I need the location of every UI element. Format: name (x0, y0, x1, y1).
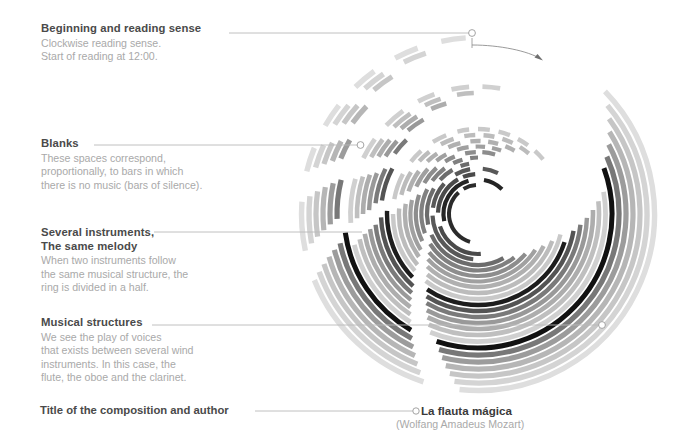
ring-segment (451, 87, 469, 89)
callout-title: Several instruments, (41, 226, 188, 240)
composition-author: (Wolfang Amadeus Mozart) (396, 418, 524, 430)
ring-segment (440, 226, 481, 254)
callout-body-line: proportionally, to bars in which (41, 165, 202, 179)
ring-segment (441, 38, 465, 41)
ring-segment (441, 139, 454, 144)
ring-segment (431, 103, 446, 108)
leader-dot-musical-structures (599, 322, 606, 329)
callout-title: Musical structures (41, 316, 194, 330)
callout-body-line: ring is divided in a half. (41, 281, 188, 295)
ring-segment (465, 152, 476, 153)
leader-dot-blanks (357, 142, 364, 149)
ring-segment (492, 148, 501, 151)
callout-body-line: Clockwise reading sense. (41, 37, 201, 51)
ring-segment (307, 148, 315, 171)
infographic-canvas: Beginning and reading sense Clockwise re… (0, 0, 684, 437)
callout-body-line: there is no music (bars of silence). (41, 179, 202, 193)
callout-several-instruments: Several instruments, The same melody Whe… (41, 226, 188, 295)
ring-segment (483, 169, 498, 173)
ring-segment (445, 157, 455, 162)
ring-segment (484, 180, 502, 189)
callout-body: Clockwise reading sense. Start of readin… (41, 37, 201, 64)
ring-segment (461, 164, 470, 166)
leader-dot-beginning (469, 30, 476, 37)
ring-segment (502, 139, 512, 143)
ring-segment (323, 187, 325, 230)
ring-segment (499, 132, 510, 136)
ring-segment (505, 146, 514, 150)
callout-body-line: Start of reading at 12:00. (41, 50, 201, 64)
ring-segment (449, 192, 470, 241)
ring-segment (463, 174, 475, 177)
callout-body-line: When two instruments follow (41, 254, 188, 268)
ring-segment (478, 129, 490, 130)
ring-segment (482, 152, 495, 154)
ring-segment (316, 145, 324, 167)
callout-body-line: instruments. In this case, the (41, 358, 194, 372)
ring-segment (453, 160, 462, 164)
ring-segment (457, 129, 469, 131)
ring-segment (488, 142, 498, 144)
callout-body: We see the play of voices that exists be… (41, 331, 194, 385)
callout-beginning-and-reading-sense: Beginning and reading sense Clockwise re… (41, 22, 201, 64)
ring-segment (535, 151, 543, 160)
ring-segment (309, 196, 312, 243)
callout-body-line: the same musical structure, the (41, 268, 188, 282)
ring-segment (518, 139, 528, 145)
callout-body-line: We see the play of voices (41, 331, 194, 345)
rings-layer (302, 38, 655, 391)
ring-segment (330, 183, 333, 224)
ring-segment (484, 135, 495, 137)
callout-title-second-line: The same melody (41, 240, 188, 254)
ring-segment (464, 185, 476, 189)
callout-body-line: These spaces correspond, (41, 152, 202, 166)
ring-segment (520, 147, 529, 153)
ring-segment (470, 158, 478, 159)
composition-title: La flauta mágica (421, 404, 512, 417)
callout-body-line: that exists between several wind (41, 344, 194, 358)
callout-blanks: Blanks These spaces correspond, proporti… (41, 137, 202, 192)
ring-segment (316, 191, 318, 236)
ring-segment (448, 143, 460, 147)
callout-body: When two instruments follow the same mus… (41, 254, 188, 295)
clockwise-arrow (472, 45, 541, 59)
ring-segment (337, 180, 341, 219)
callout-body: These spaces correspond, proportionally,… (41, 152, 202, 193)
ring-segment (302, 202, 306, 251)
callout-title: Blanks (41, 137, 202, 151)
clockwise-arrow-head-icon (535, 54, 544, 61)
leader-dot-footer (413, 408, 419, 414)
callout-body-line: flute, the oboe and the clarinet. (41, 371, 194, 385)
ring-segment (464, 135, 475, 136)
ring-segment (457, 147, 468, 150)
callout-title: Beginning and reading sense (41, 22, 201, 36)
composition-label: Title of the composition and author (40, 404, 229, 416)
ring-segment (351, 179, 356, 223)
ring-segment (482, 87, 500, 89)
ring-segment (457, 93, 474, 95)
callout-musical-structures: Musical structures We see the play of vo… (41, 316, 194, 385)
